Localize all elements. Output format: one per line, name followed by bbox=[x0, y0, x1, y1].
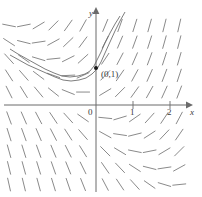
slope-mark bbox=[130, 180, 139, 190]
slope-mark bbox=[62, 56, 74, 62]
x-tick-label-2: 2 bbox=[167, 108, 172, 117]
slope-mark bbox=[176, 129, 183, 140]
slope-mark bbox=[147, 53, 152, 65]
slope-mark bbox=[133, 36, 137, 48]
slope-mark bbox=[143, 150, 156, 153]
slope-mark bbox=[162, 69, 167, 81]
slope-mark bbox=[18, 41, 31, 44]
slope-mark bbox=[36, 112, 42, 124]
slope-mark bbox=[66, 178, 70, 190]
slope-mark bbox=[65, 129, 72, 140]
slope-mark bbox=[177, 53, 181, 66]
slope-mark bbox=[50, 113, 57, 124]
slope-mark bbox=[101, 147, 110, 156]
slope-mark bbox=[47, 73, 59, 77]
slope-mark bbox=[173, 184, 186, 185]
slope-mark bbox=[103, 19, 108, 31]
slope-mark bbox=[177, 69, 181, 81]
slope-mark bbox=[163, 19, 166, 32]
slope-mark bbox=[162, 86, 167, 98]
slope-mark bbox=[80, 162, 86, 174]
slope-mark bbox=[5, 54, 14, 64]
slope-mark bbox=[8, 178, 11, 191]
slope-mark bbox=[178, 36, 181, 49]
slope-mark bbox=[100, 89, 111, 96]
slope-mark bbox=[132, 53, 137, 65]
slope-mark bbox=[78, 114, 89, 121]
slope-mark bbox=[21, 112, 26, 124]
slope-mark bbox=[100, 131, 111, 137]
slope-mark bbox=[145, 113, 154, 123]
slope-mark bbox=[162, 53, 166, 65]
slope-mark bbox=[51, 162, 55, 174]
slope-mark bbox=[114, 148, 125, 155]
slope-mark bbox=[36, 129, 41, 141]
slope-mark bbox=[116, 163, 125, 172]
slope-mark bbox=[158, 167, 171, 169]
slope-mark bbox=[33, 72, 43, 80]
slope-mark bbox=[19, 55, 30, 62]
initial-condition-label: (0,1) bbox=[101, 70, 118, 79]
slope-mark bbox=[7, 112, 12, 124]
y-axis-label: y bbox=[89, 9, 93, 18]
slope-mark bbox=[78, 54, 88, 63]
slope-mark bbox=[22, 145, 26, 157]
slope-mark bbox=[131, 87, 139, 98]
slope-mark bbox=[133, 19, 137, 31]
slope-mark bbox=[148, 19, 151, 32]
slope-mark bbox=[47, 58, 60, 59]
slope-mark bbox=[49, 21, 58, 30]
slope-mark bbox=[37, 178, 40, 191]
slope-mark bbox=[36, 145, 40, 157]
slope-mark bbox=[177, 86, 182, 98]
slope-mark bbox=[20, 71, 29, 81]
slope-mark bbox=[144, 131, 155, 138]
slope-mark bbox=[178, 19, 181, 32]
slope-mark bbox=[66, 162, 71, 174]
x-axis-label: x bbox=[190, 108, 194, 117]
slope-mark bbox=[80, 20, 86, 31]
slope-mark bbox=[50, 129, 56, 141]
slope-mark bbox=[7, 162, 10, 175]
slope-mark bbox=[116, 179, 123, 190]
slope-mark bbox=[52, 178, 56, 190]
slope-mark bbox=[102, 163, 109, 174]
slope-mark bbox=[62, 75, 75, 76]
slope-mark bbox=[79, 37, 87, 47]
slope-mark bbox=[117, 53, 123, 65]
slope-mark bbox=[118, 36, 123, 48]
slope-mark bbox=[20, 87, 27, 98]
slope-mark bbox=[132, 70, 138, 81]
slope-mark bbox=[129, 133, 142, 136]
slope-mark bbox=[102, 179, 108, 191]
plot-canvas bbox=[0, 0, 202, 197]
slope-mark bbox=[176, 112, 182, 124]
slope-mark bbox=[114, 116, 126, 120]
slope-mark bbox=[99, 117, 112, 118]
slope-mark bbox=[148, 36, 152, 48]
slope-mark bbox=[160, 130, 169, 139]
slope-mark bbox=[175, 147, 184, 156]
slope-mark bbox=[33, 22, 44, 29]
slope-mark bbox=[64, 38, 73, 47]
slope-mark bbox=[6, 86, 12, 98]
slope-mark bbox=[37, 162, 41, 174]
slope-mark bbox=[3, 24, 16, 27]
slope-mark bbox=[163, 36, 167, 49]
slope-mark bbox=[81, 179, 86, 191]
slope-mark bbox=[115, 87, 124, 96]
slope-mark bbox=[34, 87, 42, 97]
slope-mark bbox=[80, 146, 87, 157]
slope-mark bbox=[146, 86, 152, 97]
slope-mark bbox=[147, 69, 152, 81]
annotation-markers bbox=[94, 66, 98, 70]
slope-mark bbox=[143, 166, 156, 169]
coordinate-axes bbox=[4, 7, 193, 192]
slope-mark bbox=[32, 41, 45, 43]
origin-tick-label: 0 bbox=[88, 108, 93, 117]
slope-mark bbox=[48, 88, 58, 96]
slope-mark bbox=[22, 178, 25, 191]
slope-mark bbox=[64, 113, 73, 123]
slope-mark bbox=[51, 145, 56, 157]
slope-mark bbox=[32, 57, 44, 61]
